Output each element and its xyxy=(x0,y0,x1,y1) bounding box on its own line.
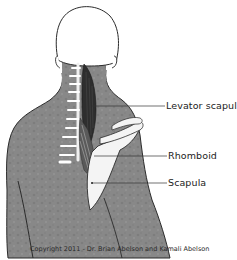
anatomy-illustration xyxy=(0,0,237,260)
copyright-notice: Copyright 2011 - Dr. Brian Abelson and K… xyxy=(30,245,209,253)
head xyxy=(56,7,118,66)
label-scapula: Scapula xyxy=(168,177,206,188)
label-rhomboid: Rhomboid xyxy=(168,150,217,161)
scapula-pointer-dot xyxy=(91,182,93,184)
label-levator-scapulae: Levator scapulae xyxy=(166,100,237,111)
